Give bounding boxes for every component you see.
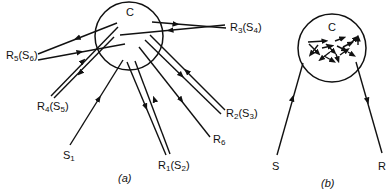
caption-a: (a) xyxy=(118,172,132,184)
label-r1-s2: R1(S2) xyxy=(158,159,190,173)
path-r2-s3 xyxy=(145,35,225,114)
multiple-scatter-paths xyxy=(308,38,358,61)
path-s-incoming xyxy=(277,63,303,155)
panel-b: C S R (b) xyxy=(272,14,386,189)
path-r5-s6 xyxy=(38,23,125,60)
label-r4-s5: R4(S5) xyxy=(37,100,69,114)
label-r2-s3: R2(S3) xyxy=(226,107,258,121)
circle-label-c: C xyxy=(126,6,134,18)
label-s1: S1 xyxy=(63,149,75,163)
panel-a: C xyxy=(6,2,262,184)
caption-b: (b) xyxy=(321,177,335,189)
label-s: S xyxy=(272,160,279,172)
path-r-outgoing xyxy=(356,62,382,153)
label-r3-s4: R3(S4) xyxy=(230,21,262,35)
scattering-diagram: C xyxy=(0,0,388,190)
label-r: R xyxy=(378,160,386,172)
label-r5-s6: R5(S6) xyxy=(6,49,38,63)
path-r1-s2 xyxy=(127,61,170,155)
circle-label-c-b: C xyxy=(328,21,336,33)
path-r3-s4 xyxy=(120,22,226,35)
label-r6: R6 xyxy=(213,133,226,147)
